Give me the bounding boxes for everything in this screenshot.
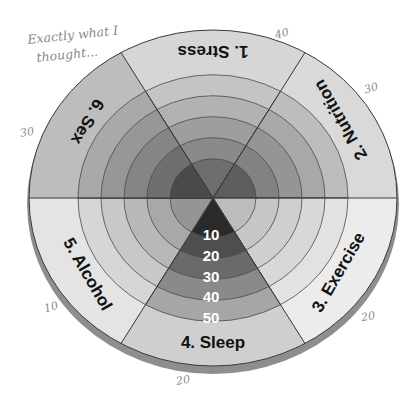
score-alcohol: 10 xyxy=(43,299,60,315)
annotation-line-1: Exactly what I xyxy=(26,22,120,47)
scale-30: 30 xyxy=(203,268,220,285)
annotation-line-2: thought... xyxy=(36,44,99,65)
segment-label-stress: 1. Stress xyxy=(178,42,249,61)
scale-20: 20 xyxy=(203,247,220,264)
scale-40: 40 xyxy=(203,288,220,305)
score-sex: 30 xyxy=(19,125,35,140)
wellness-wheel: 1. Stress 2. Nutrition 3. Exercise 4. Sl… xyxy=(0,0,417,402)
score-sleep: 20 xyxy=(174,373,191,388)
segment-label-sleep: 4. Sleep xyxy=(181,333,245,352)
score-nutrition: 30 xyxy=(363,80,380,96)
score-exercise: 20 xyxy=(359,309,376,324)
scale-10: 10 xyxy=(203,226,220,243)
scale-50: 50 xyxy=(203,309,220,326)
